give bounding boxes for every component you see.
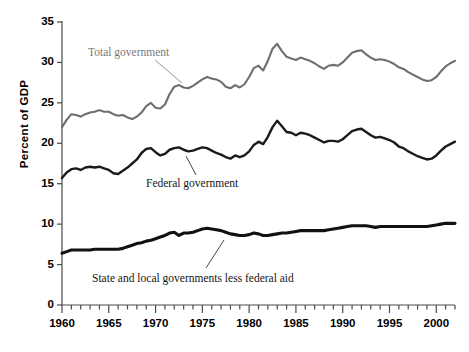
y-tick-label: 25 xyxy=(2,96,54,108)
annotation-leader-line-2 xyxy=(206,240,224,268)
x-tick-label: 2000 xyxy=(406,317,466,329)
series-annotation-label: Federal government xyxy=(146,177,238,189)
y-tick-label: 0 xyxy=(2,298,54,310)
y-tick-label: 35 xyxy=(2,15,54,27)
y-tick-label: 15 xyxy=(2,177,54,189)
series-line-1 xyxy=(62,121,455,178)
series-annotation-label: State and local governments less federal… xyxy=(92,272,294,284)
series-annotation-label: Total government xyxy=(88,46,169,58)
annotation-leader-line-0 xyxy=(155,60,182,83)
y-tick-label: 20 xyxy=(2,136,54,148)
y-tick-label: 30 xyxy=(2,55,54,67)
annotation-leader-line-1 xyxy=(186,156,196,175)
y-tick-label: 5 xyxy=(2,258,54,270)
chart-figure: Percent of GDP 05101520253035 1960196519… xyxy=(0,0,469,352)
series-line-2 xyxy=(62,223,455,253)
y-axis-title: Percent of GDP xyxy=(18,64,30,184)
line-chart-canvas xyxy=(0,0,469,352)
y-tick-label: 10 xyxy=(2,217,54,229)
